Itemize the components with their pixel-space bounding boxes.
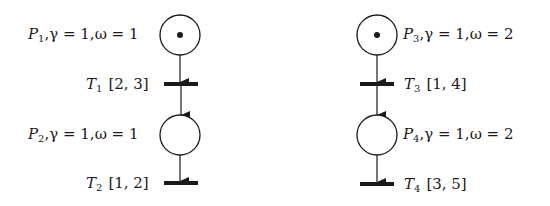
transition-index: 1 (96, 83, 102, 94)
place-circle (357, 115, 397, 155)
firing-interval: [1, 4] (426, 75, 466, 93)
omega-value: ω = 1 (95, 25, 139, 43)
place-circle (160, 115, 200, 155)
transition-name: T (404, 75, 414, 93)
omega-value: ω = 2 (470, 125, 514, 143)
token-dot (177, 32, 183, 38)
place-label-p3: P3,γ = 1,ω = 2 (403, 25, 514, 43)
place-label-p4: P4,γ = 1,ω = 2 (403, 125, 514, 143)
transition-label-t1: T1[2, 3] (86, 75, 149, 93)
transition-name: T (86, 75, 96, 93)
gamma-value: ,γ = 1, (419, 25, 469, 43)
place-p1 (160, 15, 200, 55)
transition-label-t3: T3[1, 4] (404, 75, 467, 93)
firing-interval: [3, 5] (426, 175, 466, 193)
place-name: P (403, 25, 413, 43)
transition-name: T (404, 175, 414, 193)
place-p4 (357, 115, 397, 155)
transition-label-t2: T2[1, 2] (86, 174, 149, 192)
gamma-value: ,γ = 1, (419, 125, 469, 143)
transition-label-t4: T4[3, 5] (404, 175, 467, 193)
transition-index: 3 (414, 83, 420, 94)
transition-t3 (360, 82, 394, 86)
arcs (180, 55, 377, 182)
gamma-value: ,γ = 1, (44, 25, 94, 43)
firing-interval: [2, 3] (108, 75, 148, 93)
gamma-value: ,γ = 1, (44, 125, 94, 143)
transition-t4 (360, 182, 394, 186)
omega-value: ω = 2 (470, 25, 514, 43)
transition-t2 (164, 181, 198, 185)
place-name: P (28, 125, 38, 143)
place-p3 (357, 15, 397, 55)
omega-value: ω = 1 (95, 125, 139, 143)
token-dot (374, 32, 380, 38)
transition-name: T (86, 174, 96, 192)
place-label-p1: P1,γ = 1,ω = 1 (28, 25, 139, 43)
transition-t1 (164, 82, 198, 86)
transition-index: 4 (414, 183, 420, 194)
place-name: P (28, 25, 38, 43)
place-name: P (403, 125, 413, 143)
place-label-p2: P2,γ = 1,ω = 1 (28, 125, 139, 143)
firing-interval: [1, 2] (108, 174, 148, 192)
transition-index: 2 (96, 182, 102, 193)
place-p2 (160, 115, 200, 155)
